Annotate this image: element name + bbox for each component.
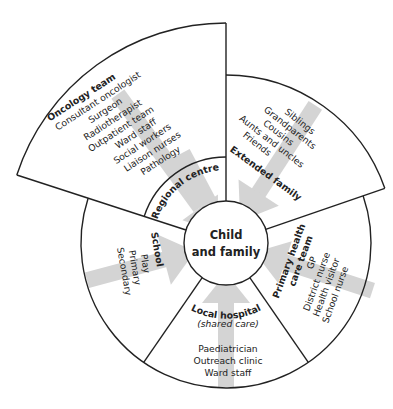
local-item: Ward staff bbox=[205, 367, 253, 378]
oncology-team-sector: Oncology team Consultant oncologist Surg… bbox=[45, 58, 189, 204]
center-label-line1: Child bbox=[210, 228, 243, 242]
care-network-diagram: Child and family Oncology team Consultan… bbox=[0, 0, 393, 409]
local-item: Outreach clinic bbox=[194, 355, 263, 366]
local-hospital-subtitle: (shared care) bbox=[197, 318, 259, 329]
center-label-line2: and family bbox=[192, 245, 261, 259]
local-item: Paediatrician bbox=[198, 343, 258, 354]
school-sector: School Play Primary Secondary bbox=[114, 231, 170, 297]
primary-care-sector: Primary health care team GP District nur… bbox=[268, 222, 359, 324]
center-circle bbox=[184, 201, 268, 285]
divider-local-school bbox=[144, 278, 203, 363]
